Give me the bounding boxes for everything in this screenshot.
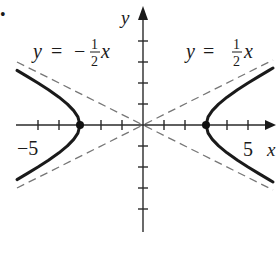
y-axis-label: y xyxy=(119,7,130,28)
y-axis-arrow-icon xyxy=(138,6,148,20)
asymptote-right-label: y = 1 2 x xyxy=(184,37,253,69)
label-left-lhs: y xyxy=(31,40,42,63)
label-right-numerator: 1 xyxy=(233,37,240,52)
label-right-denominator: 2 xyxy=(233,54,240,69)
label-left-eq: = xyxy=(51,40,62,62)
label-right-eq: = xyxy=(203,40,214,62)
label-left-numerator: 1 xyxy=(91,37,98,52)
x-tick-label-neg5: −5 xyxy=(17,137,38,159)
hyperbola-figure: • xyxy=(0,0,276,255)
label-left-denominator: 2 xyxy=(91,54,98,69)
x-axis xyxy=(16,120,268,130)
label-right-var: x xyxy=(243,40,253,62)
asymptote-left-label: y = − 1 2 x xyxy=(31,37,110,69)
vertex-left-point xyxy=(76,121,84,129)
x-axis-arrow-icon xyxy=(265,120,276,130)
label-left-sign: − xyxy=(74,40,85,62)
x-tick-label-5: 5 xyxy=(243,138,253,160)
bullet-marker: • xyxy=(0,6,6,23)
label-left-var: x xyxy=(100,40,110,62)
vertex-right-point xyxy=(202,121,210,129)
asymptote-positive-slope xyxy=(17,60,273,188)
x-axis-label: x xyxy=(266,139,276,160)
label-right-lhs: y xyxy=(184,40,195,63)
asymptote-negative-slope xyxy=(17,62,273,190)
